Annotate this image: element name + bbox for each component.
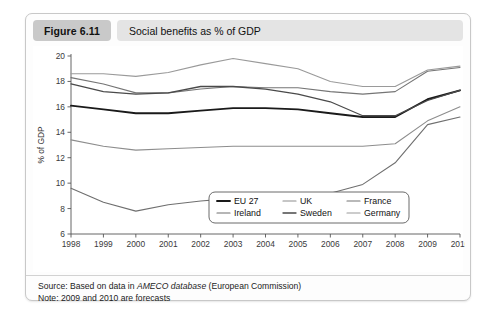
line-chart: 68101214161820% of GDP199819992000200120…	[33, 46, 465, 272]
svg-text:% of GDP: % of GDP	[36, 126, 46, 164]
svg-text:2003: 2003	[224, 239, 243, 249]
svg-text:2004: 2004	[256, 239, 275, 249]
chart-series-lines	[71, 59, 460, 212]
legend-label-germany: Germany	[364, 208, 401, 218]
svg-text:2009: 2009	[418, 239, 437, 249]
svg-text:2007: 2007	[353, 239, 372, 249]
legend-label-france: France	[364, 196, 391, 206]
svg-text:12: 12	[56, 153, 66, 163]
svg-text:8: 8	[60, 204, 65, 214]
legend-label-sweden: Sweden	[300, 208, 332, 218]
svg-text:20: 20	[56, 51, 66, 61]
source-italic: AMECO database	[137, 281, 206, 291]
svg-text:1998: 1998	[62, 239, 81, 249]
series-line-germany	[71, 59, 460, 87]
series-line-sweden	[71, 84, 460, 116]
legend-label-eu-27: EU 27	[234, 196, 259, 206]
svg-text:2006: 2006	[321, 239, 340, 249]
svg-text:2002: 2002	[191, 239, 210, 249]
svg-text:6: 6	[60, 229, 65, 239]
svg-text:2008: 2008	[386, 239, 405, 249]
figure-title: Social benefits as % of GDP	[117, 20, 463, 41]
figure-number-badge: Figure 6.11	[33, 20, 111, 41]
chart-plot-area: 68101214161820% of GDP199819992000200120…	[33, 46, 463, 272]
series-line-france	[71, 67, 460, 94]
svg-text:2001: 2001	[159, 239, 178, 249]
svg-text:2005: 2005	[289, 239, 308, 249]
source-suffix: (European Commission)	[206, 281, 301, 291]
svg-text:1999: 1999	[94, 239, 113, 249]
legend-label-uk: UK	[300, 196, 312, 206]
figure-footer: Source: Based on data in AMECO database …	[26, 275, 470, 301]
svg-text:2000: 2000	[127, 239, 146, 249]
note-line: Note: 2009 and 2010 are forecasts	[38, 293, 458, 305]
source-prefix: Source: Based on data in	[38, 281, 137, 291]
legend-label-ireland: Ireland	[234, 208, 261, 218]
svg-text:2010: 2010	[451, 239, 465, 249]
figure-card: Figure 6.11 Social benefits as % of GDP …	[25, 13, 471, 301]
chart-legend: EU 27UKFranceIrelandSwedenGermany	[209, 192, 409, 223]
svg-text:16: 16	[56, 102, 66, 112]
figure-header: Figure 6.11 Social benefits as % of GDP	[33, 20, 463, 41]
source-line: Source: Based on data in AMECO database …	[38, 281, 458, 293]
svg-text:18: 18	[56, 76, 66, 86]
svg-text:14: 14	[56, 127, 66, 137]
svg-text:10: 10	[56, 178, 66, 188]
